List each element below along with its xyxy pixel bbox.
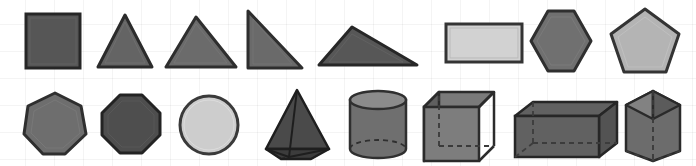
shape-triangle-obtuse: [316, 24, 420, 68]
shape-rectangle: [444, 22, 524, 64]
shape-square: [24, 12, 82, 70]
shape-cylinder: [347, 89, 409, 163]
shapes-board: Square Equilateral Triangle Isosceles Tr…: [0, 0, 696, 166]
shape-triangle-equilateral: [95, 12, 155, 70]
shape-octagon: [99, 92, 163, 156]
shape-triangle-right: [244, 8, 306, 72]
shape-triangle-isosceles: [163, 14, 239, 70]
shape-hexagon: [528, 8, 594, 74]
shape-circle: [177, 93, 241, 157]
shape-cube: [421, 89, 497, 165]
shape-pentagon: [608, 6, 682, 76]
shape-square-pyramid: [259, 87, 335, 163]
shape-rectangular-prism: [512, 99, 620, 161]
shape-heptagon: [21, 90, 89, 158]
shape-triangular-prism: [621, 88, 685, 164]
